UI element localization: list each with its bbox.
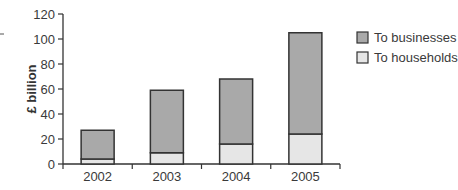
bar-2002 [81,130,114,164]
x-axis: 2002200320042005 [63,164,340,184]
y-axis-title: £ billion [24,64,39,113]
stacked-bar-chart: 020406080100120 2002200320042005 To busi… [0,0,458,190]
y-tick-label: 80 [41,57,55,72]
x-tick-label: 2004 [222,169,251,184]
bar-segment-to-businesses [150,90,183,153]
y-tick-label: 0 [48,157,55,172]
y-tick-label: 100 [33,32,55,47]
legend: To businessesTo households [357,30,458,65]
y-tick-label: 20 [41,132,55,147]
bar-segment-to-businesses [81,130,114,159]
x-tick-label: 2005 [291,169,320,184]
bar-2005 [289,33,322,164]
legend-label: To businesses [374,30,457,45]
bar-2004 [220,79,253,164]
bar-2003 [150,90,183,164]
x-tick-label: 2002 [83,169,112,184]
y-tick-label: 120 [33,7,55,22]
bars [81,33,322,164]
y-tick-label: 40 [41,107,55,122]
bar-segment-to-businesses [289,33,322,134]
bar-segment-to-households [150,153,183,164]
y-tick-label: 60 [41,82,55,97]
x-tick-label: 2003 [152,169,181,184]
bar-segment-to-households [220,144,253,164]
bar-segment-to-households [289,134,322,164]
legend-swatch [357,32,368,43]
legend-swatch [357,52,368,63]
bar-segment-to-businesses [220,79,253,144]
legend-label: To households [374,50,458,65]
